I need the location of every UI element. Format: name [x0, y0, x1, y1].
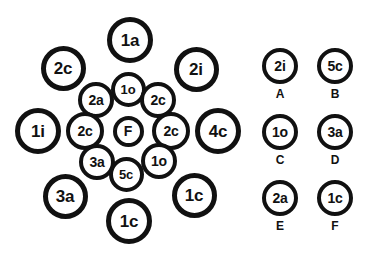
legend-key-label: B	[331, 88, 340, 100]
legend-key-label: D	[331, 154, 340, 166]
legend-item[interactable]: 2iA	[255, 48, 305, 100]
legend-circle: 1c	[317, 180, 353, 216]
legend-key-label: A	[276, 88, 285, 100]
diagram-canvas: 1a2c2i1o2a2c1i2cF2c4c3a1o5c3a1c1c 2iA5cB…	[0, 0, 371, 258]
legend-key-label: F	[331, 220, 338, 232]
legend-circle: 2a	[262, 180, 298, 216]
legend-circle: 1o	[262, 114, 298, 150]
legend-circle: 3a	[317, 114, 353, 150]
legend-key-label: E	[276, 220, 284, 232]
legend-item[interactable]: 1cF	[310, 180, 360, 232]
legend-item[interactable]: 2aE	[255, 180, 305, 232]
legend-circle: 2i	[262, 48, 298, 84]
legend-item[interactable]: 1oC	[255, 114, 305, 166]
legend-key-label: C	[276, 154, 285, 166]
legend-item[interactable]: 5cB	[310, 48, 360, 100]
legend-circle: 5c	[317, 48, 353, 84]
legend-panel: 2iA5cB1oC3aD2aE1cF	[0, 0, 371, 258]
legend-item[interactable]: 3aD	[310, 114, 360, 166]
